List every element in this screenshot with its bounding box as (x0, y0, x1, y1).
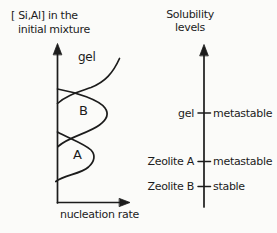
solubility-axis-arrowhead-icon (200, 45, 208, 56)
level-zeolite-a-stability: metastable (213, 155, 272, 168)
level-gel-phase: gel (130, 107, 194, 120)
level-zeolite-a-phase: Zeolite A (130, 155, 194, 168)
gel-region-label: gel (78, 51, 95, 64)
zeolite-nucleation-solubility-figure: [ Si,Al] in the initial mixture gel B A … (0, 0, 277, 233)
x-axis-title: nucleation rate (60, 208, 139, 221)
y-axis-arrowhead-icon (53, 44, 61, 55)
curve-a-label: A (73, 148, 82, 161)
solubility-title: Solubility levels (150, 8, 230, 34)
gel-boundary-curve (58, 59, 120, 104)
solubility-title-line2: levels (150, 21, 230, 34)
level-zeolite-b-stability: stable (213, 180, 245, 193)
x-axis-arrowhead-icon (120, 199, 131, 207)
y-axis-title-line2: initial mixture (18, 23, 90, 36)
solubility-title-line1: Solubility (150, 8, 230, 21)
curve-b-label: B (79, 104, 88, 117)
level-gel-stability: metastable (213, 107, 272, 120)
y-axis-title-line1: [ Si,Al] in the (11, 9, 78, 22)
level-zeolite-b-phase: Zeolite B (130, 180, 194, 193)
